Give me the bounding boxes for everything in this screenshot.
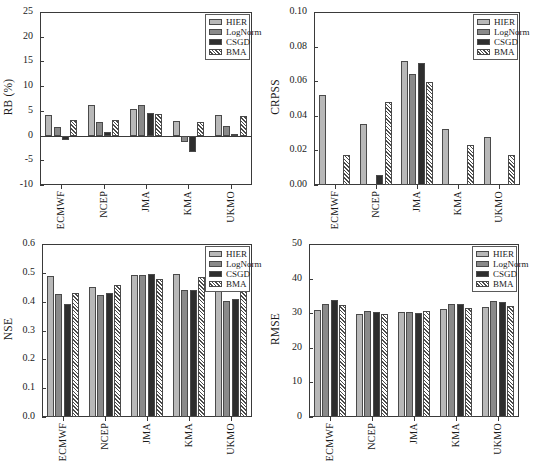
x-tick-mark	[498, 417, 499, 421]
bar-rmse-JMA-CSGD	[415, 313, 422, 417]
hier-swatch-icon	[209, 251, 222, 257]
bar-rmse-ECMWF-CSGD	[331, 300, 338, 417]
legend-label-CSGD: CSGD	[494, 37, 518, 47]
legend-label-BMA: BMA	[226, 279, 247, 289]
legend-label-HIER: HIER	[226, 17, 247, 27]
bar-nse-KMA-CSGD	[190, 290, 197, 417]
legend-item-HIER[interactable]: HIER	[477, 17, 513, 27]
x-tick-mark	[456, 417, 457, 421]
x-tick-mark	[335, 185, 336, 189]
bar-crpss-KMA-HIER	[442, 129, 449, 185]
panel-rb: -10-50510152025RB (%)ECMWFNCEPJMAKMAUKMO…	[0, 0, 267, 232]
bar-rb-JMA-HIER	[130, 109, 137, 135]
bar-rb-UKMO-BMA	[240, 116, 247, 135]
bar-rmse-JMA-HIER	[398, 312, 405, 417]
x-tick-mark	[499, 185, 500, 189]
bar-rmse-KMA-CSGD	[457, 304, 464, 417]
x-tick-mark	[376, 185, 377, 189]
legend-label-LogNorm: LogNorm	[493, 259, 529, 269]
x-tick-label-JMA: JMA	[141, 423, 152, 444]
y-tick-mark	[309, 417, 313, 418]
x-tick-mark	[146, 185, 147, 189]
bar-rb-UKMO-LogNorm	[223, 126, 230, 136]
x-tick-mark	[104, 185, 105, 189]
bar-rmse-JMA-BMA	[423, 311, 430, 417]
legend-item-LogNorm[interactable]: LogNorm	[477, 27, 513, 37]
y-tick-mark	[40, 160, 44, 161]
bar-rb-NCEP-HIER	[88, 105, 95, 136]
legend-item-CSGD[interactable]: CSGD	[209, 269, 245, 279]
bar-rb-ECMWF-BMA	[70, 120, 77, 135]
legend-item-BMA[interactable]: BMA	[209, 279, 245, 289]
bar-rb-ECMWF-CSGD	[62, 136, 69, 140]
legend-item-BMA[interactable]: BMA	[476, 279, 512, 289]
bar-rb-KMA-CSGD	[189, 136, 196, 152]
bar-nse-ECMWF-CSGD	[64, 304, 71, 417]
y-tick-mark	[40, 12, 44, 13]
legend-item-LogNorm[interactable]: LogNorm	[209, 27, 245, 37]
bar-nse-ECMWF-LogNorm	[55, 294, 62, 417]
x-tick-label-UKMO: UKMO	[225, 191, 236, 223]
x-tick-mark	[188, 185, 189, 189]
bar-crpss-JMA-CSGD	[418, 63, 425, 185]
y-tick-mark	[314, 47, 318, 48]
bar-nse-NCEP-LogNorm	[97, 295, 104, 417]
legend-label-LogNorm: LogNorm	[226, 259, 262, 269]
x-tick-label-ECMWF: ECMWF	[57, 423, 68, 461]
bar-crpss-UKMO-HIER	[484, 137, 491, 185]
legend-item-HIER[interactable]: HIER	[209, 17, 245, 27]
y-tick-label: 0.5	[0, 267, 35, 277]
bar-crpss-ECMWF-HIER	[319, 95, 326, 185]
legend-item-HIER[interactable]: HIER	[209, 249, 245, 259]
legend-item-BMA[interactable]: BMA	[209, 47, 245, 57]
legend-item-CSGD[interactable]: CSGD	[477, 37, 513, 47]
x-tick-label-KMA: KMA	[182, 191, 193, 215]
bar-rmse-UKMO-LogNorm	[490, 301, 497, 417]
x-tick-mark	[63, 417, 64, 421]
bar-rmse-KMA-HIER	[440, 309, 447, 417]
y-axis-label: NSE	[2, 291, 14, 367]
legend-item-HIER[interactable]: HIER	[476, 249, 512, 259]
legend-rmse: HIERLogNormCSGDBMA	[472, 246, 517, 292]
bar-nse-JMA-LogNorm	[139, 275, 146, 417]
legend-item-CSGD[interactable]: CSGD	[476, 269, 512, 279]
x-tick-mark	[372, 417, 373, 421]
x-tick-label-JMA: JMA	[411, 191, 422, 212]
legend-item-LogNorm[interactable]: LogNorm	[476, 259, 512, 269]
y-tick-label: 0.0	[0, 411, 35, 421]
y-tick-label: 40	[267, 273, 302, 283]
lognorm-swatch-icon	[477, 29, 490, 35]
x-tick-label-ECMWF: ECMWF	[329, 191, 340, 229]
legend-item-LogNorm[interactable]: LogNorm	[209, 259, 245, 269]
bar-rb-KMA-LogNorm	[181, 136, 188, 143]
legend-label-HIER: HIER	[494, 17, 515, 27]
legend-label-BMA: BMA	[494, 47, 515, 57]
y-axis-label: RB (%)	[2, 59, 14, 135]
legend-item-BMA[interactable]: BMA	[477, 47, 513, 57]
y-tick-label: 10	[267, 376, 302, 386]
x-tick-label-UKMO: UKMO	[493, 191, 504, 223]
lognorm-swatch-icon	[476, 261, 489, 267]
y-tick-mark	[40, 86, 44, 87]
x-tick-mark	[414, 417, 415, 421]
y-tick-mark	[40, 111, 44, 112]
x-tick-label-ECMWF: ECMWF	[324, 423, 335, 461]
x-tick-mark	[147, 417, 148, 421]
bar-nse-KMA-HIER	[173, 274, 180, 417]
bar-nse-JMA-CSGD	[148, 274, 155, 417]
y-tick-mark	[314, 12, 318, 13]
bar-crpss-NCEP-CSGD	[376, 175, 383, 185]
legend-label-LogNorm: LogNorm	[494, 27, 530, 37]
y-tick-mark	[42, 244, 46, 245]
x-tick-mark	[330, 417, 331, 421]
x-tick-label-KMA: KMA	[452, 191, 463, 215]
bar-nse-ECMWF-HIER	[47, 276, 54, 417]
csgd-swatch-icon	[476, 271, 489, 277]
y-tick-mark	[42, 331, 46, 332]
lognorm-swatch-icon	[209, 261, 222, 267]
y-tick-mark	[314, 116, 318, 117]
legend-label-LogNorm: LogNorm	[226, 27, 262, 37]
legend-item-CSGD[interactable]: CSGD	[209, 37, 245, 47]
y-tick-label: 50	[267, 238, 302, 248]
y-axis-label: RMSE	[269, 291, 281, 367]
